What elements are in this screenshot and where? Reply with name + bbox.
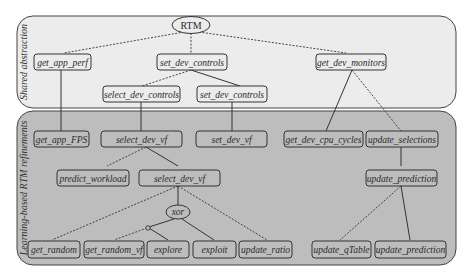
svg-text:update_prediction: update_prediction [367,174,437,184]
node-select-dev-controls: select_dev_controls [103,86,180,102]
rtm-hierarchy-diagram: Shared abstraction Learning-based RTM re… [0,0,471,279]
node-get-dev-monitors: get_dev_monitors [316,54,386,70]
node-rtm: RTM [172,17,210,34]
svg-text:RTM: RTM [180,20,201,31]
node-get-dev-cpu-cycles: get_dev_cpu_cycles [284,131,363,147]
svg-text:get_random_vf: get_random_vf [85,245,144,255]
node-explore: explore [147,241,189,258]
svg-text:get_dev_monitors: get_dev_monitors [317,58,385,68]
svg-text:get_app_FPS: get_app_FPS [36,135,88,145]
shared-abstraction-label: Shared abstraction [18,24,29,100]
svg-text:select_dev_vf: select_dev_vf [116,135,169,145]
svg-text:update_prediction: update_prediction [376,245,446,255]
svg-text:get_random: get_random [31,245,77,255]
learning-refinements-label: Learning-based RTM refinements [18,121,29,257]
node-update-selections: update_selections [366,131,438,147]
node-update-prediction-2: update_prediction [375,241,446,258]
svg-text:get_app_perf: get_app_perf [37,58,89,68]
node-set-dev-vf: set_dev_vf [196,131,267,147]
node-get-random: get_random [28,241,80,258]
svg-text:predict_workload: predict_workload [58,174,126,184]
svg-text:get_dev_cpu_cycles: get_dev_cpu_cycles [286,135,362,145]
node-get-app-fps: get_app_FPS [34,131,89,147]
svg-text:update_qTable: update_qTable [313,245,369,255]
node-get-random-vf: get_random_vf [84,241,144,258]
svg-text:set_dev_vf: set_dev_vf [211,135,252,145]
svg-text:set_dev_controls: set_dev_controls [160,58,224,68]
or-junction [146,226,150,230]
node-update-ratio: update_ratio [239,241,292,258]
node-set-dev-controls-2: set_dev_controls [197,86,267,102]
node-get-app-perf: get_app_perf [34,54,91,70]
node-select-dev-vf: select_dev_vf [101,131,182,147]
svg-text:exploit: exploit [202,245,228,255]
node-xor: xor [166,205,190,219]
svg-text:explore: explore [154,245,182,255]
svg-text:xor: xor [171,207,185,217]
svg-text:select_dev_vf: select_dev_vf [154,174,207,184]
svg-text:update_selections: update_selections [368,135,436,145]
svg-text:update_ratio: update_ratio [241,245,290,255]
node-predict-workload: predict_workload [57,170,129,186]
node-exploit: exploit [193,241,236,258]
svg-text:select_dev_controls: select_dev_controls [104,90,179,100]
node-select-dev-vf-2: select_dev_vf [139,170,220,186]
node-set-dev-controls: set_dev_controls [157,54,227,70]
svg-text:set_dev_controls: set_dev_controls [200,90,264,100]
node-update-prediction: update_prediction [366,170,437,186]
node-update-qtable: update_qTable [312,241,371,258]
